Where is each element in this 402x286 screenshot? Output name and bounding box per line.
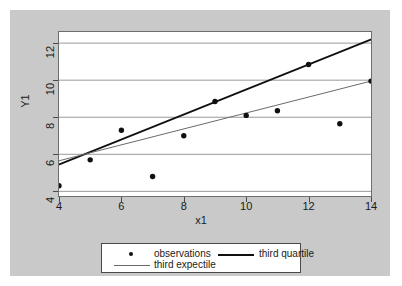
x-axis-label: x1 (0, 214, 402, 226)
data-point (306, 62, 311, 67)
y-tick-label: 12 (44, 42, 56, 62)
series-line-third-expectile (59, 81, 371, 161)
data-point (59, 183, 62, 188)
legend-observations-marker-icon (129, 252, 133, 256)
data-point (275, 108, 280, 113)
data-point (244, 113, 249, 118)
plot-canvas (59, 32, 371, 196)
chart-screenshot: Y1 4681012 468101214 x1 observations thi… (0, 0, 402, 286)
y-tick-label: 8 (44, 116, 56, 136)
y-axis-label: Y1 (19, 94, 31, 107)
x-tick-mark (121, 197, 122, 202)
data-point (119, 128, 124, 133)
y-tick-label: 10 (44, 79, 56, 99)
x-tick-mark (309, 197, 310, 202)
data-point (181, 133, 186, 138)
data-point (88, 157, 93, 162)
plot-area (58, 31, 372, 197)
data-point (337, 121, 342, 126)
data-point (212, 99, 217, 104)
legend-third-quartile-line-icon (218, 254, 254, 256)
chart-legend: observations third quartile third expect… (101, 243, 301, 273)
x-tick-mark (371, 197, 372, 202)
legend-label-third-quartile: third quartile (259, 247, 314, 261)
x-tick-mark (246, 197, 247, 202)
x-tick-mark (59, 197, 60, 202)
data-point (368, 78, 371, 83)
y-tick-label: 6 (44, 153, 56, 173)
x-tick-mark (184, 197, 185, 202)
data-point (150, 174, 155, 179)
legend-label-third-expectile: third expectile (154, 258, 216, 272)
legend-third-expectile-line-icon (114, 265, 150, 266)
